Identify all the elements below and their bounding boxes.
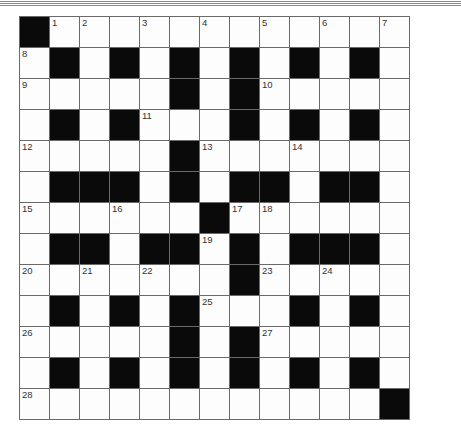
crossword-cell[interactable] [349, 140, 379, 171]
crossword-cell[interactable]: 21 [79, 264, 109, 295]
crossword-cell[interactable] [199, 109, 229, 140]
crossword-cell[interactable]: 2 [79, 16, 109, 47]
crossword-cell[interactable]: 19 [199, 233, 229, 264]
crossword-cell[interactable]: 5 [259, 16, 289, 47]
crossword-cell[interactable]: 25 [199, 295, 229, 326]
crossword-cell[interactable] [289, 202, 319, 233]
crossword-cell[interactable] [109, 388, 139, 419]
crossword-cell[interactable] [289, 326, 319, 357]
crossword-cell[interactable] [79, 357, 109, 388]
crossword-cell[interactable] [109, 326, 139, 357]
crossword-cell[interactable] [319, 202, 349, 233]
crossword-cell[interactable] [379, 171, 409, 202]
crossword-cell[interactable] [139, 388, 169, 419]
crossword-cell[interactable]: 24 [319, 264, 349, 295]
crossword-cell[interactable]: 27 [259, 326, 289, 357]
crossword-cell[interactable] [199, 388, 229, 419]
crossword-cell[interactable] [49, 78, 79, 109]
crossword-cell[interactable] [319, 388, 349, 419]
crossword-cell[interactable] [139, 202, 169, 233]
crossword-cell[interactable] [379, 326, 409, 357]
crossword-cell[interactable] [79, 202, 109, 233]
crossword-cell[interactable] [199, 47, 229, 78]
crossword-cell[interactable] [259, 388, 289, 419]
crossword-cell[interactable] [379, 140, 409, 171]
crossword-cell[interactable] [289, 171, 319, 202]
crossword-cell[interactable] [139, 326, 169, 357]
crossword-cell[interactable] [229, 295, 259, 326]
crossword-cell[interactable] [139, 171, 169, 202]
crossword-cell[interactable] [139, 47, 169, 78]
crossword-cell[interactable] [319, 295, 349, 326]
crossword-cell[interactable] [49, 140, 79, 171]
crossword-cell[interactable]: 8 [19, 47, 49, 78]
crossword-cell[interactable] [19, 357, 49, 388]
crossword-cell[interactable] [109, 16, 139, 47]
crossword-cell[interactable] [289, 78, 319, 109]
crossword-cell[interactable] [79, 78, 109, 109]
crossword-cell[interactable] [349, 326, 379, 357]
crossword-cell[interactable]: 14 [289, 140, 319, 171]
crossword-cell[interactable] [199, 264, 229, 295]
crossword-cell[interactable] [79, 47, 109, 78]
crossword-cell[interactable] [289, 388, 319, 419]
crossword-cell[interactable] [19, 233, 49, 264]
crossword-cell[interactable] [349, 264, 379, 295]
crossword-cell[interactable]: 15 [19, 202, 49, 233]
crossword-cell[interactable] [289, 16, 319, 47]
crossword-cell[interactable] [379, 233, 409, 264]
crossword-cell[interactable] [109, 233, 139, 264]
crossword-cell[interactable] [79, 388, 109, 419]
crossword-cell[interactable] [319, 78, 349, 109]
crossword-cell[interactable] [139, 357, 169, 388]
crossword-cell[interactable]: 20 [19, 264, 49, 295]
crossword-cell[interactable] [169, 202, 199, 233]
crossword-cell[interactable] [49, 326, 79, 357]
crossword-cell[interactable] [109, 140, 139, 171]
crossword-cell[interactable] [379, 264, 409, 295]
crossword-cell[interactable]: 23 [259, 264, 289, 295]
crossword-cell[interactable] [79, 295, 109, 326]
crossword-cell[interactable]: 16 [109, 202, 139, 233]
crossword-cell[interactable]: 11 [139, 109, 169, 140]
crossword-cell[interactable] [169, 16, 199, 47]
crossword-cell[interactable]: 1 [49, 16, 79, 47]
crossword-cell[interactable] [139, 78, 169, 109]
crossword-cell[interactable] [139, 295, 169, 326]
crossword-cell[interactable] [79, 140, 109, 171]
crossword-cell[interactable] [259, 357, 289, 388]
crossword-cell[interactable] [259, 295, 289, 326]
crossword-cell[interactable] [19, 295, 49, 326]
crossword-cell[interactable] [229, 140, 259, 171]
crossword-cell[interactable] [109, 264, 139, 295]
crossword-cell[interactable] [379, 109, 409, 140]
crossword-cell[interactable] [169, 388, 199, 419]
crossword-cell[interactable] [319, 109, 349, 140]
crossword-cell[interactable] [379, 357, 409, 388]
crossword-cell[interactable]: 4 [199, 16, 229, 47]
crossword-cell[interactable] [259, 233, 289, 264]
crossword-cell[interactable]: 7 [379, 16, 409, 47]
crossword-cell[interactable] [79, 109, 109, 140]
crossword-cell[interactable] [79, 326, 109, 357]
crossword-cell[interactable] [19, 171, 49, 202]
crossword-cell[interactable] [259, 47, 289, 78]
crossword-cell[interactable] [349, 78, 379, 109]
crossword-cell[interactable] [259, 140, 289, 171]
crossword-cell[interactable] [319, 357, 349, 388]
crossword-cell[interactable] [49, 264, 79, 295]
crossword-cell[interactable] [109, 78, 139, 109]
crossword-cell[interactable] [19, 109, 49, 140]
crossword-cell[interactable] [349, 202, 379, 233]
crossword-cell[interactable] [319, 326, 349, 357]
crossword-cell[interactable] [49, 388, 79, 419]
crossword-cell[interactable] [289, 264, 319, 295]
crossword-cell[interactable] [199, 78, 229, 109]
crossword-cell[interactable]: 18 [259, 202, 289, 233]
crossword-cell[interactable] [199, 171, 229, 202]
crossword-cell[interactable]: 9 [19, 78, 49, 109]
crossword-cell[interactable] [139, 140, 169, 171]
crossword-cell[interactable] [199, 326, 229, 357]
crossword-cell[interactable] [379, 295, 409, 326]
crossword-cell[interactable] [229, 388, 259, 419]
